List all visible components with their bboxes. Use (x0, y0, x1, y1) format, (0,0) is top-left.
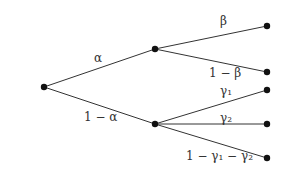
edge-label-beta: β (220, 14, 227, 28)
edge-label-gamma2: γ₂ (220, 111, 232, 125)
edge-label-one-minus-beta: 1 − β (209, 66, 241, 80)
edge-label-one-minus-gamma1-minus-gamma2: 1 − γ₁ − γ₂ (186, 149, 253, 163)
node-b1 (264, 87, 270, 93)
node-b3 (264, 155, 270, 161)
edge-b-to-b1 (155, 90, 267, 124)
node-a (152, 46, 158, 52)
node-root (41, 84, 47, 90)
edge-label-one-minus-alpha: 1 − α (84, 110, 117, 124)
node-b2 (264, 121, 270, 127)
edge-label-alpha: α (94, 51, 102, 65)
edge-label-gamma1: γ₁ (220, 84, 232, 98)
probability-tree-diagram: α 1 − α β 1 − β γ₁ γ₂ 1 − γ₁ − γ₂ (0, 0, 284, 180)
node-a1 (264, 23, 270, 29)
node-b (152, 121, 158, 127)
edge-a-to-a1 (155, 26, 267, 49)
node-a2 (264, 69, 270, 75)
